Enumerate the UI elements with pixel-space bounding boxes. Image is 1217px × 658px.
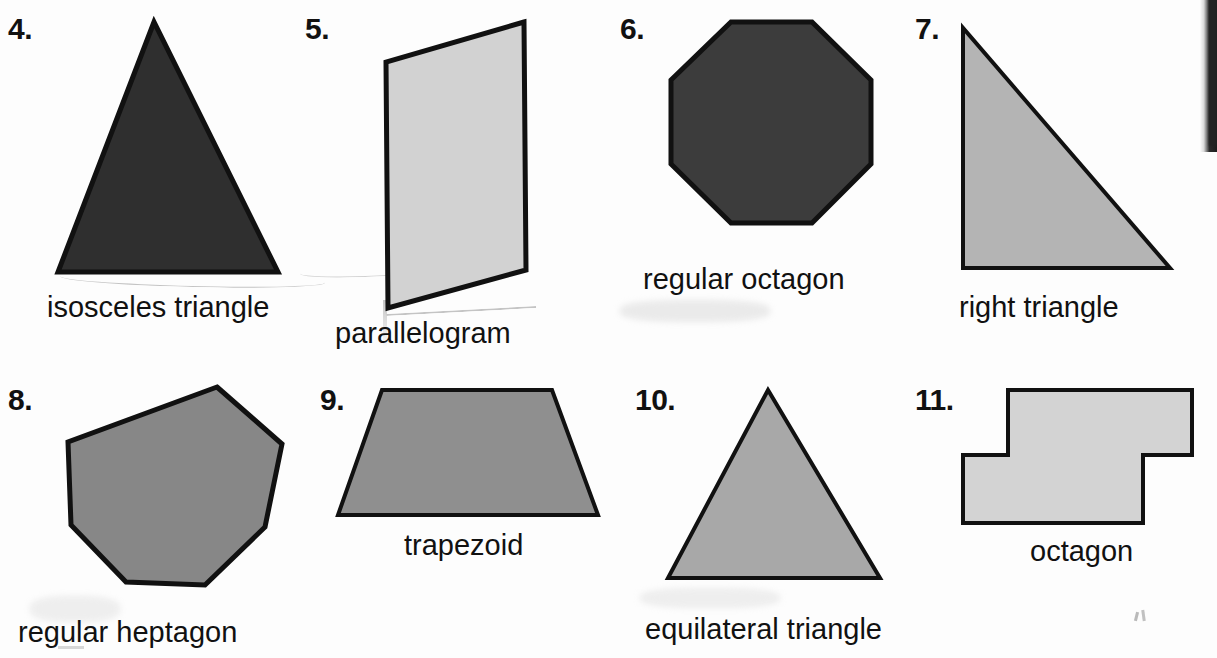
- shape-label: trapezoid: [404, 531, 523, 560]
- shape-label: equilateral triangle: [645, 615, 882, 644]
- scan-smudge: [1134, 612, 1139, 621]
- shape-outline-equilateral-triangle: [668, 390, 880, 578]
- shape-label: right triangle: [959, 293, 1119, 322]
- worksheet-page: 4.isosceles triangle5.parallelogram6.reg…: [0, 0, 1217, 658]
- shape-trapezoid: [330, 378, 610, 538]
- shape-regular-heptagon: [50, 375, 290, 615]
- shape-outline-right-triangle: [963, 28, 1170, 268]
- problem-number: 11.: [915, 385, 954, 415]
- shape-outline-parallelogram: [386, 22, 526, 308]
- shape-outline-regular-heptagon: [68, 387, 282, 585]
- shape-outline-regular-octagon: [671, 22, 871, 223]
- problem-number: 6.: [620, 14, 644, 44]
- shape-label: isosceles triangle: [47, 293, 269, 322]
- shape-irregular-octagon: [955, 378, 1205, 543]
- shape-label: parallelogram: [335, 319, 511, 348]
- shape-label: octagon: [1030, 537, 1133, 566]
- scan-smudge: [1141, 610, 1146, 621]
- problem-number: 7.: [915, 14, 939, 44]
- shape-outline-irregular-octagon: [963, 390, 1192, 523]
- shape-regular-octagon: [660, 16, 885, 261]
- problem-number: 8.: [8, 385, 32, 415]
- shape-right-triangle: [955, 20, 1190, 280]
- scan-smudge: [620, 300, 770, 322]
- problem-number: 5.: [305, 14, 329, 44]
- shape-equilateral-triangle: [660, 378, 890, 618]
- shape-outline-isosceles-triangle: [58, 22, 278, 272]
- shape-outline-trapezoid: [338, 390, 598, 515]
- problem-number: 4.: [8, 14, 32, 44]
- shape-isosceles-triangle: [50, 14, 285, 276]
- shape-label: regular octagon: [643, 265, 845, 294]
- shape-parallelogram: [380, 16, 535, 316]
- scan-edge-artifact-inner: [1209, 0, 1217, 146]
- shape-label: regular heptagon: [18, 618, 237, 647]
